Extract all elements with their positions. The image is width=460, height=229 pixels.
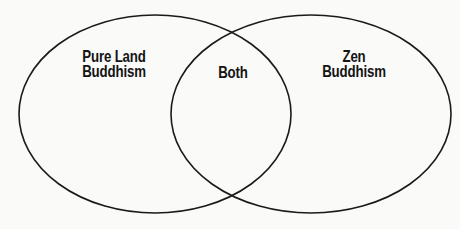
venn-diagram: Pure Land Buddhism Both Zen Buddhism <box>0 0 460 229</box>
label-line: Both <box>202 65 264 80</box>
zen-buddhism-circle <box>171 15 451 213</box>
label-line: Buddhism <box>307 64 401 79</box>
venn-circles <box>0 0 460 229</box>
label-line: Buddhism <box>67 64 161 79</box>
zen-buddhism-label: Zen Buddhism <box>307 49 401 79</box>
pure-land-buddhism-circle <box>19 15 291 213</box>
both-label: Both <box>202 65 264 80</box>
pure-land-buddhism-label: Pure Land Buddhism <box>67 49 161 79</box>
